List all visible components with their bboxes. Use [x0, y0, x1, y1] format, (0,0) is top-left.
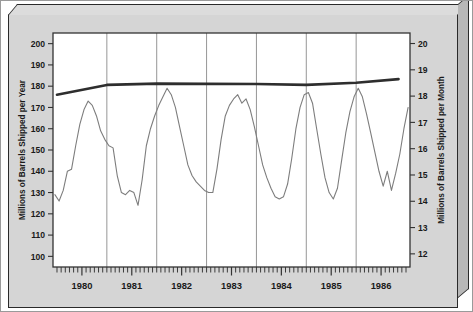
y-axis-tick-label-right: 12 [418, 249, 428, 259]
y-axis-tick-label-left: 120 [31, 209, 46, 219]
y-axis-tick-label-right: 20 [418, 39, 428, 49]
y-axis-tick-label-left: 180 [31, 81, 46, 91]
left-axis-title: Millions of Barrels Shipped per Year [18, 79, 27, 220]
x-axis-year-label: 1981 [121, 280, 142, 291]
y-axis-tick-label-right: 18 [418, 91, 428, 101]
y-axis-tick-label-left: 200 [31, 39, 46, 49]
chart-plot-wrapper: 1001101201301401501601701801902001213141… [8, 14, 458, 308]
y-axis-tick-label-left: 100 [31, 252, 46, 262]
y-axis-tick-label-right: 14 [418, 196, 428, 206]
y-axis-tick-label-right: 15 [418, 170, 428, 180]
y-axis-tick-label-left: 190 [31, 60, 46, 70]
y-axis-tick-label-left: 110 [31, 230, 45, 240]
chart-frame-right-bevel [458, 0, 469, 298]
y-axis-tick-label-right: 16 [418, 144, 428, 154]
x-axis-year-label: 1983 [221, 280, 242, 291]
chart-screenshot: 1001101201301401501601701801902001213141… [0, 0, 473, 312]
x-axis-year-label: 1984 [271, 280, 293, 291]
x-axis-year-label: 1980 [71, 280, 92, 291]
x-axis-year-label: 1985 [321, 280, 342, 291]
y-axis-tick-label-left: 140 [31, 166, 46, 176]
y-axis-tick-label-left: 150 [31, 145, 46, 155]
line-chart: 1001101201301401501601701801902001213141… [8, 14, 458, 308]
y-axis-tick-label-left: 170 [31, 103, 46, 113]
y-axis-tick-label-right: 13 [418, 223, 428, 233]
y-axis-tick-label-right: 17 [418, 118, 428, 128]
y-axis-tick-label-right: 19 [418, 65, 428, 75]
y-axis-tick-label-left: 160 [31, 124, 46, 134]
right-axis-title: Millions of Barrels Shipped per Month [437, 76, 446, 223]
y-axis-tick-label-left: 130 [31, 188, 46, 198]
x-axis-year-label: 1982 [171, 280, 192, 291]
x-axis-year-label: 1986 [371, 280, 392, 291]
